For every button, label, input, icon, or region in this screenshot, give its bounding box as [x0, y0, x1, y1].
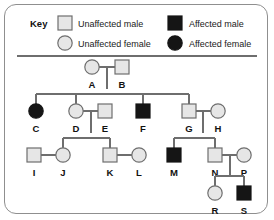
legend-label-unaffected-male: Unaffected male [78, 19, 143, 29]
individual-a-label: A [89, 79, 96, 90]
individual-c-label: C [33, 123, 40, 134]
individual-g-symbol [182, 104, 196, 118]
pedigree-diagram: Key Unaffected male Affected male Unaffe… [0, 0, 274, 220]
individual-l-label: L [136, 167, 142, 178]
key-title: Key [30, 18, 48, 29]
individual-f-label: F [140, 123, 146, 134]
legend-label-affected-male: Affected male [189, 19, 244, 29]
individual-j-symbol [56, 148, 70, 162]
legend-label-affected-female: Affected female [189, 39, 251, 49]
individual-r-symbol [208, 186, 222, 200]
individual-m-symbol [167, 148, 181, 162]
individual-l-symbol [132, 148, 146, 162]
individual-s-label: S [241, 205, 247, 216]
individual-j-label: J [60, 167, 65, 178]
pedigree-figure: Key Unaffected male Affected male Unaffe… [0, 0, 274, 220]
individual-b-label: B [119, 79, 126, 90]
individual-b-symbol [115, 60, 129, 74]
legend-label-unaffected-female: Unaffected female [78, 39, 151, 49]
legend-square-unaffected-icon [58, 16, 72, 30]
legend-circle-affected-icon [168, 36, 182, 50]
individual-s-symbol [237, 186, 251, 200]
legend-circle-unaffected-icon [58, 36, 72, 50]
individual-p-symbol [237, 148, 251, 162]
individual-m-label: M [170, 167, 178, 178]
individual-i-symbol [27, 148, 41, 162]
legend-square-affected-icon [168, 16, 182, 30]
individual-h-symbol [211, 104, 225, 118]
individual-k-label: K [107, 167, 114, 178]
individual-a-symbol [85, 60, 99, 74]
individual-n-symbol [208, 148, 222, 162]
individual-g-label: G [185, 123, 192, 134]
individual-r-label: R [212, 205, 219, 216]
individual-e-symbol [98, 104, 112, 118]
individual-d-label: D [73, 123, 80, 134]
individual-f-symbol [136, 104, 150, 118]
individual-k-symbol [103, 148, 117, 162]
individual-e-label: E [102, 123, 108, 134]
individual-d-symbol [69, 104, 83, 118]
individual-c-symbol [29, 104, 43, 118]
individual-i-label: I [33, 167, 36, 178]
individual-h-label: H [215, 123, 222, 134]
